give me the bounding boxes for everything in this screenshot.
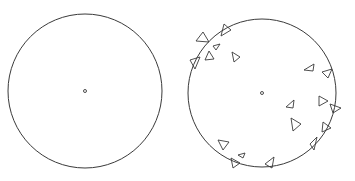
triangle-shape (286, 100, 294, 108)
figure-canvas (0, 0, 355, 181)
triangle-shape (231, 158, 240, 168)
triangle-shape (190, 57, 200, 69)
triangle-shape (322, 69, 332, 78)
triangle-shape (330, 104, 341, 113)
triangle-shape (238, 153, 245, 158)
triangle-shape (319, 96, 328, 106)
triangle-shape (196, 32, 209, 42)
center-point (84, 90, 87, 93)
triangle-shape (291, 118, 301, 131)
triangle-shape (265, 157, 274, 168)
triangle-shape (304, 64, 314, 71)
empty-circle-panel (8, 14, 162, 168)
triangle-shape (205, 51, 214, 60)
triangle-shape (232, 52, 240, 62)
triangle-shape (218, 140, 229, 150)
triangle-shape (213, 44, 220, 50)
center-point (261, 92, 264, 95)
triangle-shape (221, 24, 231, 36)
circle-with-triangles-panel (188, 19, 341, 168)
boundary-circle (8, 14, 162, 168)
